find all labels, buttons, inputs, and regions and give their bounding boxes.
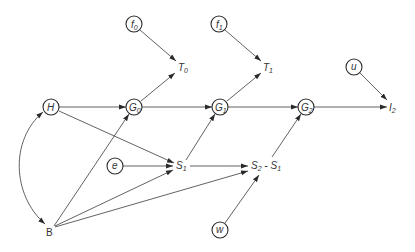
node-G2: G2 <box>298 99 314 115</box>
edge-H-B-curved <box>19 112 45 224</box>
node-T1: T1 <box>263 62 273 74</box>
edge-H-S1 <box>59 111 174 163</box>
svg-text:B: B <box>46 227 53 238</box>
edge-S2S1-G2 <box>272 114 301 157</box>
node-B: B <box>46 227 53 238</box>
svg-text:e: e <box>112 160 118 171</box>
node-f0: f0 <box>126 16 142 32</box>
edge-w-S2S1 <box>225 175 259 223</box>
svg-text:S1: S1 <box>176 160 187 172</box>
node-I2: I2 <box>389 102 396 114</box>
edge-f0-T0 <box>140 30 176 61</box>
edge-S1-G1 <box>186 114 215 160</box>
edge-u-I2 <box>360 73 387 100</box>
svg-text:u: u <box>351 61 357 72</box>
edge-f1-T1 <box>225 30 261 61</box>
node-T0: T0 <box>178 62 188 74</box>
node-u: u <box>346 59 362 75</box>
edge-G1-T1 <box>227 73 261 101</box>
svg-text:I2: I2 <box>389 102 396 114</box>
svg-text:T0: T0 <box>178 62 188 74</box>
node-G1: G1 <box>212 99 228 115</box>
svg-text:w: w <box>216 224 224 235</box>
path-diagram: f0 f1 u H G0 G1 G2 e w T0 T1 I2 S1 <box>0 0 415 252</box>
node-S2-minus-S1: S2 - S1 <box>251 160 281 172</box>
svg-text:H: H <box>47 102 55 113</box>
node-w: w <box>212 222 228 238</box>
node-G0: G0 <box>126 99 142 115</box>
edges <box>19 30 387 227</box>
node-S1: S1 <box>176 160 187 172</box>
node-f1: f1 <box>211 16 227 32</box>
svg-text:T1: T1 <box>263 62 273 74</box>
node-H: H <box>43 99 59 115</box>
edge-B-S2S1 <box>55 171 248 227</box>
edge-G0-T0 <box>141 73 175 101</box>
svg-text:S2 - S1: S2 - S1 <box>251 160 281 172</box>
node-e: e <box>107 158 123 174</box>
